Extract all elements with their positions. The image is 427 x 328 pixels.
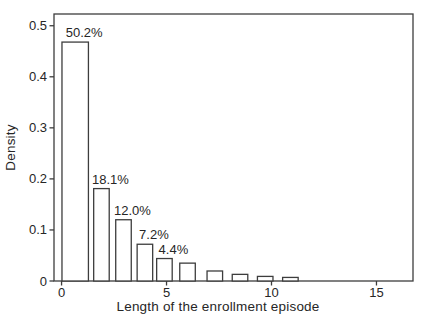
bar-percentage-label: 18.1% — [92, 172, 129, 187]
histogram-bar — [62, 42, 88, 281]
y-axis-tick-label: 0.2 — [29, 171, 47, 186]
x-axis-title: Length of the enrollment episode — [68, 299, 368, 314]
bar-percentage-label: 4.4% — [159, 242, 189, 257]
histogram-bar — [257, 276, 273, 281]
histogram-bar — [207, 271, 223, 281]
bar-percentage-label: 12.0% — [114, 203, 151, 218]
x-axis-tick-label: 10 — [264, 285, 278, 300]
histogram-bar — [157, 259, 173, 281]
histogram-bar — [116, 220, 132, 281]
density-histogram-chart: 05101500.10.20.30.40.550.2%18.1%12.0%7.2… — [0, 0, 427, 328]
x-axis-tick-label: 0 — [58, 285, 65, 300]
y-axis-title: Density — [3, 78, 18, 218]
x-axis-tick-label: 5 — [163, 285, 170, 300]
bar-percentage-label: 50.2% — [66, 25, 103, 40]
histogram-bar — [232, 274, 248, 281]
histogram-bar — [180, 263, 196, 281]
y-axis-tick-label: 0.1 — [29, 222, 47, 237]
bar-percentage-label: 7.2% — [139, 227, 169, 242]
density-histogram-figure: 05101500.10.20.30.40.550.2%18.1%12.0%7.2… — [0, 0, 427, 328]
y-axis-tick-label: 0.5 — [29, 18, 47, 33]
histogram-bar — [94, 189, 110, 281]
histogram-bar — [283, 277, 299, 281]
y-axis-tick-label: 0.3 — [29, 120, 47, 135]
histogram-bar — [137, 244, 153, 281]
x-axis-tick-label: 15 — [369, 285, 383, 300]
y-axis-tick-label: 0 — [40, 274, 47, 289]
y-axis-tick-label: 0.4 — [29, 69, 47, 84]
